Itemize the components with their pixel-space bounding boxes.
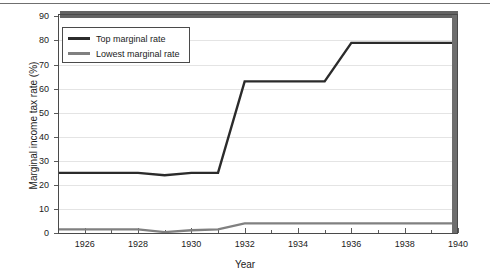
x-tick-label: 1936 bbox=[331, 239, 371, 249]
x-tick-label: 1928 bbox=[118, 239, 158, 249]
x-tick-label: 1938 bbox=[385, 239, 425, 249]
legend-label-lowest: Lowest marginal rate bbox=[96, 49, 180, 59]
x-tick-label: 1932 bbox=[225, 239, 265, 249]
y-tick-label: 0 bbox=[27, 228, 49, 238]
x-tick-label: 1930 bbox=[171, 239, 211, 249]
y-tick-label: 90 bbox=[27, 11, 49, 21]
y-axis-ticks bbox=[54, 17, 58, 234]
x-tick-label: 1934 bbox=[278, 239, 318, 249]
legend-swatch-icon-top bbox=[68, 37, 90, 40]
legend-label-top: Top marginal rate bbox=[96, 34, 166, 44]
x-axis-title: Year bbox=[0, 259, 490, 270]
legend-item-top-marginal-rate: Top marginal rate bbox=[68, 31, 184, 46]
y-axis-title: Marginal income tax rate (%) bbox=[28, 31, 39, 221]
legend-swatch-icon-lowest bbox=[68, 52, 90, 55]
x-tick-label: 1940 bbox=[438, 239, 478, 249]
figure: 0102030405060708090 19261928193019321934… bbox=[0, 0, 490, 279]
chart-legend: Top marginal rate Lowest marginal rate bbox=[62, 27, 190, 63]
x-tick-label: 1926 bbox=[65, 239, 105, 249]
legend-item-lowest-marginal-rate: Lowest marginal rate bbox=[68, 46, 184, 61]
